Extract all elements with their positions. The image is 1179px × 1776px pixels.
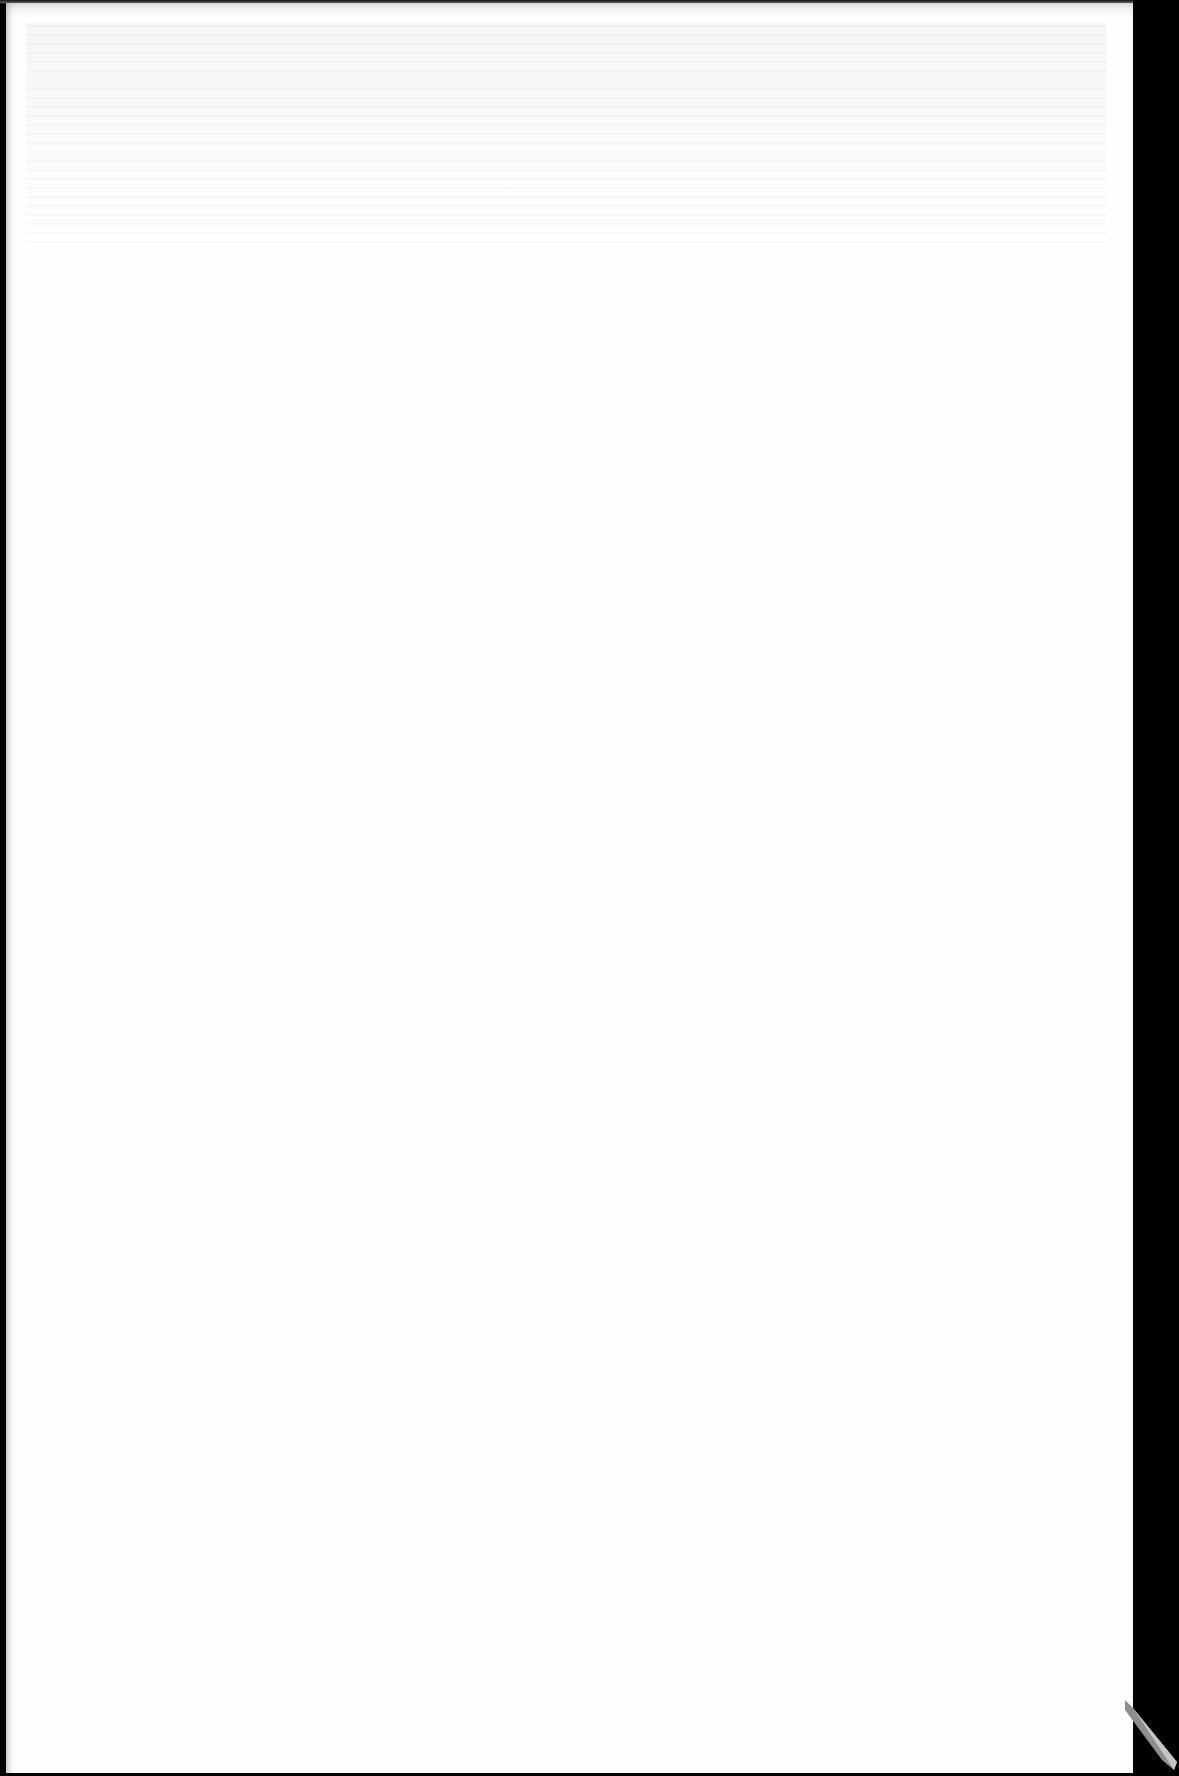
- blank-page: [6, 3, 1133, 1773]
- scanned-document: [0, 0, 1179, 1776]
- show-through-texture: [26, 23, 1106, 243]
- page-corner-curl-icon: [1122, 1700, 1179, 1776]
